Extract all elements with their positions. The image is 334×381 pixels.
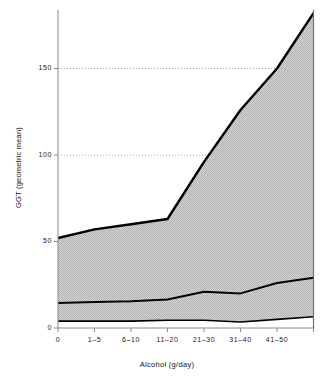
- y-tick-label-150: 150: [14, 64, 52, 71]
- chart-container: 050100150 01–56–1011–2021–3031–4041–50 G…: [0, 0, 334, 381]
- x-axis-title: Alcohol (g/day): [0, 360, 334, 369]
- y-tick-label-50: 50: [14, 237, 52, 244]
- y-axis-title: GGT (geometric mean): [14, 103, 23, 233]
- upper-band: [58, 13, 314, 303]
- x-tick-label-6: 41–50: [252, 336, 302, 343]
- y-tick-label-0: 0: [14, 324, 52, 331]
